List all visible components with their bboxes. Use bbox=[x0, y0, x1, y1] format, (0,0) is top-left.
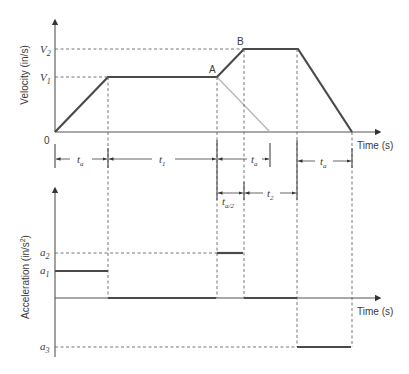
a1-label: a1 bbox=[40, 264, 50, 279]
velocity-profile bbox=[55, 49, 352, 132]
a2-label: a2 bbox=[40, 246, 50, 261]
dim-ta-2: ta bbox=[251, 153, 258, 168]
a3-label: a3 bbox=[40, 340, 50, 355]
accel-x-label: Time (s) bbox=[357, 306, 393, 317]
dim-t1: t1 bbox=[159, 153, 166, 168]
acceleration-chart: Acceleration (in/s2) a2 a1 a3 Time (s) bbox=[19, 190, 393, 357]
dim-ta-half: ta/2 bbox=[222, 195, 235, 210]
alternate-decel-line bbox=[217, 77, 270, 132]
accel-y-label: Acceleration (in/s2) bbox=[19, 235, 31, 319]
origin-label: 0 bbox=[44, 135, 50, 146]
v2-label: V2 bbox=[40, 43, 51, 58]
velocity-chart: Velocity (in/s) V2 V1 0 A B Time (s) bbox=[19, 22, 393, 151]
dimension-lines: ta t1 ta ta ta/2 t2 bbox=[56, 153, 351, 210]
dim-ta-3: ta bbox=[320, 155, 327, 170]
point-a-label: A bbox=[209, 64, 216, 75]
motion-profile-diagram: Velocity (in/s) V2 V1 0 A B Time (s) ta … bbox=[0, 0, 409, 374]
time-guides bbox=[55, 49, 352, 347]
velocity-x-label: Time (s) bbox=[357, 140, 393, 151]
point-b-label: B bbox=[237, 36, 244, 47]
velocity-y-label: Velocity (in/s) bbox=[19, 45, 30, 104]
v1-label: V1 bbox=[40, 71, 51, 86]
dim-t2: t2 bbox=[267, 187, 274, 202]
dim-ta-1: ta bbox=[77, 153, 84, 168]
